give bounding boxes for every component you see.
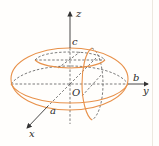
semi-axis-a-label: a [50,105,56,116]
hidden-lines [11,48,128,124]
ellipsoid-figure: z c b y O a x [0,0,159,146]
y-axis-label: y [142,85,149,96]
page-edge-divider [152,0,153,146]
x-axis-label: x [29,128,35,139]
ellipsoid-diagram: z c b y O a x [0,0,159,146]
origin-label: O [72,87,80,98]
axes [27,12,148,128]
z-axis-label: z [75,8,82,19]
x-axis [27,106,48,128]
semi-axis-c-label: c [72,36,78,47]
semi-axis-b-label: b [133,72,139,83]
